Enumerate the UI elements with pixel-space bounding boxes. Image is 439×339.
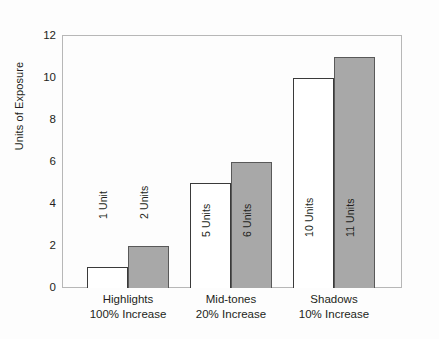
x-label-midtones-sub: 20% Increase	[171, 307, 291, 322]
bar-label-shadows-before: 10 Units	[303, 198, 315, 237]
y-tick-4: 4	[4, 198, 56, 210]
y-tick-8: 8	[4, 114, 56, 126]
x-label-midtones-name: Mid-tones	[206, 293, 257, 305]
x-label-highlights-sub: 100% Increase	[68, 307, 188, 322]
x-axis-labels: Highlights 100% Increase Mid-tones 20% I…	[62, 292, 402, 336]
bar-highlights-after[interactable]	[128, 246, 169, 288]
y-tick-12: 12	[4, 30, 56, 42]
y-tick-10: 10	[4, 72, 56, 84]
bar-label-highlights-after: 2 Units	[138, 186, 150, 219]
x-label-highlights-name: Highlights	[103, 293, 154, 305]
y-tick-6: 6	[4, 156, 56, 168]
bars-layer: 1 Unit 2 Units 5 Units 6 Units 10 Units …	[62, 35, 402, 288]
bar-shadows-before[interactable]	[293, 78, 334, 288]
x-label-shadows: Shadows 10% Increase	[274, 292, 394, 321]
bar-label-midtones-after: 6 Units	[241, 204, 253, 237]
bar-chart: Units of Exposure 12 10 8 6 4 2 0 1 Unit…	[0, 0, 439, 339]
y-axis-tick-labels: 12 10 8 6 4 2 0	[0, 0, 56, 339]
x-label-midtones: Mid-tones 20% Increase	[171, 292, 291, 321]
x-label-highlights: Highlights 100% Increase	[68, 292, 188, 321]
bar-shadows-after[interactable]	[334, 57, 375, 288]
x-label-shadows-sub: 10% Increase	[274, 307, 394, 322]
bar-highlights-before[interactable]	[87, 267, 128, 288]
x-label-shadows-name: Shadows	[310, 293, 357, 305]
y-tick-0: 0	[4, 282, 56, 294]
bar-label-highlights-before: 1 Unit	[97, 191, 109, 219]
y-tick-2: 2	[4, 240, 56, 252]
bar-label-midtones-before: 5 Units	[200, 204, 212, 237]
bar-label-shadows-after: 11 Units	[344, 198, 356, 237]
